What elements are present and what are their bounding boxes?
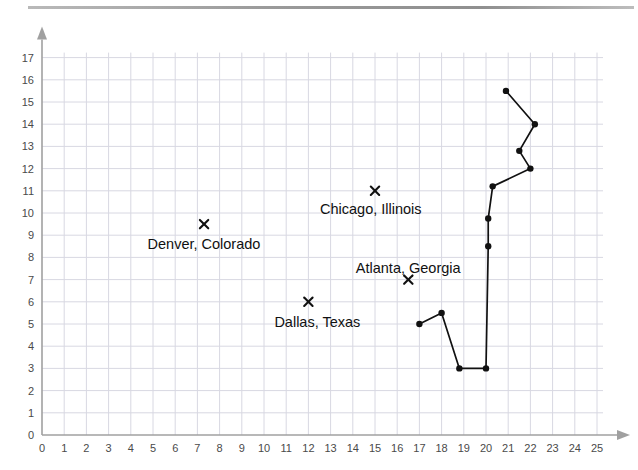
x-tick-label: 1 <box>54 443 74 454</box>
x-tick-label: 0 <box>32 443 52 454</box>
x-tick-label: 6 <box>165 443 185 454</box>
x-tick-label: 14 <box>343 443 363 454</box>
chart-canvas: 0123456789101112131415161718192021222324… <box>0 0 638 470</box>
y-tick-label: 14 <box>14 119 34 130</box>
data-point-dot <box>489 183 495 189</box>
y-tick-label: 2 <box>14 386 34 397</box>
data-point-dot <box>485 243 491 249</box>
data-point-dot <box>527 165 533 171</box>
x-tick-label: 5 <box>143 443 163 454</box>
y-tick-label: 16 <box>14 75 34 86</box>
data-point-dot <box>456 365 462 371</box>
x-tick-label: 18 <box>432 443 452 454</box>
x-tick-label: 7 <box>187 443 207 454</box>
x-tick-label: 12 <box>298 443 318 454</box>
x-tick-label: 13 <box>321 443 341 454</box>
x-tick-label: 17 <box>409 443 429 454</box>
x-tick-label: 21 <box>498 443 518 454</box>
data-point-dot <box>416 321 422 327</box>
x-axis-arrow <box>617 430 630 440</box>
scatter-plot <box>0 0 638 470</box>
x-tick-label: 8 <box>210 443 230 454</box>
data-point-dot <box>516 148 522 154</box>
y-tick-label: 5 <box>14 319 34 330</box>
y-tick-label: 4 <box>14 341 34 352</box>
x-tick-label: 2 <box>76 443 96 454</box>
y-tick-label: 6 <box>14 297 34 308</box>
x-tick-label: 23 <box>543 443 563 454</box>
x-tick-label: 22 <box>520 443 540 454</box>
x-tick-label: 16 <box>387 443 407 454</box>
y-tick-label: 1 <box>14 408 34 419</box>
x-tick-label: 10 <box>254 443 274 454</box>
data-point-dot <box>503 88 509 94</box>
x-tick-label: 15 <box>365 443 385 454</box>
data-point-dot <box>485 215 491 221</box>
route-line <box>419 91 534 369</box>
data-point-dot <box>438 310 444 316</box>
y-tick-label: 13 <box>14 141 34 152</box>
x-tick-label: 4 <box>121 443 141 454</box>
route-polyline <box>419 91 534 369</box>
y-tick-label: 8 <box>14 252 34 263</box>
y-tick-label: 9 <box>14 230 34 241</box>
y-tick-label: 0 <box>14 430 34 441</box>
city-label: Chicago, Illinois <box>320 202 422 217</box>
y-tick-label: 10 <box>14 208 34 219</box>
city-label: Dallas, Texas <box>274 315 360 330</box>
y-axis-arrow <box>37 27 47 40</box>
y-tick-label: 15 <box>14 97 34 108</box>
city-marker-x <box>200 220 208 228</box>
data-point-dot <box>483 365 489 371</box>
x-tick-label: 19 <box>454 443 474 454</box>
x-tick-label: 9 <box>232 443 252 454</box>
x-tick-label: 11 <box>276 443 296 454</box>
data-point-dot <box>532 121 538 127</box>
y-tick-label: 3 <box>14 363 34 374</box>
y-tick-label: 11 <box>14 186 34 197</box>
x-tick-label: 20 <box>476 443 496 454</box>
y-tick-label: 17 <box>14 53 34 64</box>
city-label: Atlanta, Georgia <box>356 261 461 276</box>
city-label: Denver, Colorado <box>148 237 261 252</box>
axes <box>37 27 630 440</box>
grid-lines <box>42 53 603 435</box>
x-tick-label: 24 <box>565 443 585 454</box>
x-tick-label: 25 <box>587 443 607 454</box>
x-tick-label: 3 <box>99 443 119 454</box>
y-tick-label: 7 <box>14 275 34 286</box>
y-tick-label: 12 <box>14 164 34 175</box>
